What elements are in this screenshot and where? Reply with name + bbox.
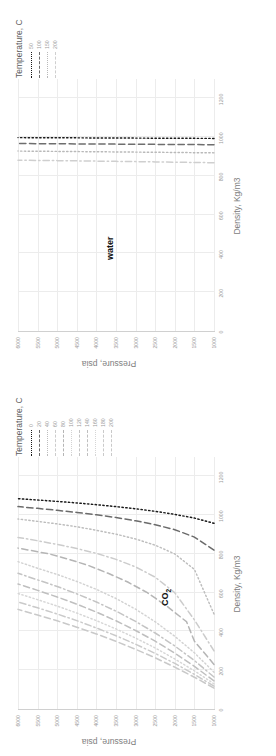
legend-item[interactable]: 160 bbox=[91, 397, 99, 456]
x-tick-label: 600 bbox=[218, 211, 224, 220]
y-tick-label: 2500 bbox=[152, 715, 158, 756]
x-axis-title-water: Density, Kg/m3 bbox=[232, 80, 242, 332]
legend-item-label: 180 bbox=[100, 418, 106, 427]
x-tick-label: 400 bbox=[218, 250, 224, 259]
y-tick-label: 5500 bbox=[35, 337, 41, 378]
x-tick-label: 800 bbox=[218, 173, 224, 182]
y-tick-label: 4000 bbox=[93, 337, 99, 378]
legend-title-co2: Temperature, C bbox=[14, 397, 24, 456]
series-line bbox=[18, 160, 214, 163]
series-line bbox=[18, 499, 214, 524]
legend-key-swatch bbox=[55, 52, 56, 78]
x-tick-label: 200 bbox=[218, 289, 224, 298]
legend-item-label: 40 bbox=[44, 421, 50, 427]
legend-key-swatch bbox=[47, 52, 48, 78]
x-tick-label: 1200 bbox=[218, 472, 224, 484]
legend-key-swatch bbox=[71, 430, 72, 456]
series-line bbox=[18, 151, 214, 153]
legend-key-swatch bbox=[31, 52, 32, 78]
legend-item[interactable]: 150 bbox=[43, 19, 51, 78]
legend-key-swatch bbox=[47, 430, 48, 456]
series-annotation-water: water bbox=[105, 236, 115, 260]
legend-co2: Temperature, C 0204060801001201401601802… bbox=[14, 397, 115, 456]
subscript: 2 bbox=[165, 589, 172, 593]
legend-item[interactable]: 80 bbox=[59, 397, 67, 456]
x-tick-label: 0 bbox=[218, 331, 224, 334]
legend-item-label: 140 bbox=[84, 418, 90, 427]
y-tick-label: 5500 bbox=[35, 715, 41, 756]
legend-items-water: 50100150200 bbox=[27, 19, 59, 78]
legend-key-swatch bbox=[87, 430, 88, 456]
legend-item-label: 80 bbox=[60, 421, 66, 427]
y-tick-label: 6000 bbox=[15, 337, 21, 378]
x-tick-label: 1000 bbox=[218, 132, 224, 144]
x-tick-label: 600 bbox=[218, 589, 224, 598]
y-tick-label: 4000 bbox=[93, 715, 99, 756]
series-line bbox=[18, 138, 214, 139]
legend-item-label: 50 bbox=[28, 43, 34, 49]
y-tick-label: 3000 bbox=[133, 715, 139, 756]
legend-item-label: 200 bbox=[52, 40, 58, 49]
y-tick-label: 1500 bbox=[191, 337, 197, 378]
y-tick-label: 5000 bbox=[54, 715, 60, 756]
y-axis-title-co2: Pressure, psia bbox=[59, 737, 159, 747]
legend-item[interactable]: 140 bbox=[83, 397, 91, 456]
legend-key-swatch bbox=[95, 430, 96, 456]
series-line bbox=[18, 593, 214, 683]
legend-water: Temperature, C 50100150200 bbox=[14, 19, 59, 78]
y-tick-label: 6000 bbox=[15, 715, 21, 756]
legend-item[interactable]: 200 bbox=[51, 19, 59, 78]
y-tick-label: 2000 bbox=[172, 715, 178, 756]
legend-key-swatch bbox=[39, 430, 40, 456]
y-tick-label: 4500 bbox=[74, 715, 80, 756]
series-layer bbox=[18, 79, 214, 331]
series-layer bbox=[18, 457, 214, 709]
legend-item[interactable]: 200 bbox=[107, 397, 115, 456]
legend-key-swatch bbox=[63, 430, 64, 456]
legend-item[interactable]: 120 bbox=[75, 397, 83, 456]
legend-item-label: 150 bbox=[44, 40, 50, 49]
legend-item[interactable]: 0 bbox=[27, 397, 35, 456]
x-tick-label: 200 bbox=[218, 667, 224, 676]
chart-co2: 020040060080010001200 100015002000250030… bbox=[0, 378, 276, 756]
legend-item[interactable]: 40 bbox=[43, 397, 51, 456]
legend-item[interactable]: 20 bbox=[35, 397, 43, 456]
legend-key-swatch bbox=[111, 430, 112, 456]
chart-water: 020040060080010001200 100015002000250030… bbox=[0, 0, 276, 378]
plot-area-co2 bbox=[18, 457, 215, 710]
legend-item[interactable]: 180 bbox=[99, 397, 107, 456]
series-line bbox=[18, 573, 214, 677]
plot-area-water bbox=[18, 79, 215, 332]
legend-item-label: 100 bbox=[36, 40, 42, 49]
y-axis-title-water: Pressure, psia bbox=[59, 359, 159, 369]
legend-item[interactable]: 100 bbox=[35, 19, 43, 78]
series-line bbox=[18, 602, 214, 686]
chart-co2-rotated-canvas: 020040060080010001200 100015002000250030… bbox=[0, 378, 276, 756]
legend-item-label: 160 bbox=[92, 418, 98, 427]
legend-item[interactable]: 50 bbox=[27, 19, 35, 78]
chart-page: 020040060080010001200 100015002000250030… bbox=[0, 0, 276, 756]
legend-item-label: 120 bbox=[76, 418, 82, 427]
y-tick-label: 1000 bbox=[211, 337, 217, 378]
legend-item[interactable]: 100 bbox=[67, 397, 75, 456]
y-tick-label: 3000 bbox=[133, 337, 139, 378]
legend-item[interactable]: 60 bbox=[51, 397, 59, 456]
series-annotation-co2: CO2 bbox=[160, 589, 172, 606]
legend-key-swatch bbox=[55, 430, 56, 456]
x-tick-label: 0 bbox=[218, 709, 224, 712]
series-line bbox=[18, 507, 214, 550]
legend-key-swatch bbox=[31, 430, 32, 456]
legend-title-water: Temperature, C bbox=[14, 19, 24, 78]
legend-items-co2: 020406080100120140160180200 bbox=[27, 397, 115, 456]
legend-key-swatch bbox=[103, 430, 104, 456]
gridline-horizontal bbox=[214, 79, 215, 331]
y-tick-label: 1000 bbox=[211, 715, 217, 756]
y-tick-label: 5000 bbox=[54, 337, 60, 378]
legend-item-label: 0 bbox=[28, 424, 34, 427]
y-tick-label: 2000 bbox=[172, 337, 178, 378]
legend-item-label: 100 bbox=[68, 418, 74, 427]
y-tick-label: 3500 bbox=[113, 337, 119, 378]
legend-item-label: 60 bbox=[52, 421, 58, 427]
y-tick-label: 1500 bbox=[191, 715, 197, 756]
series-line bbox=[18, 548, 214, 664]
